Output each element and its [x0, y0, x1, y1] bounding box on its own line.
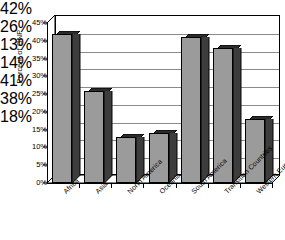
bar-side-face	[104, 91, 113, 183]
bar-chart: Percent of GNP 0%5%10%15%20%25%30%35%40%…	[0, 0, 285, 240]
y-tick-mark	[43, 111, 47, 112]
y-axis-line	[47, 23, 48, 183]
plot-area: 0%5%10%15%20%25%30%35%40%45% 42%26%13%14…	[0, 0, 285, 240]
gridline	[56, 52, 279, 53]
bar-front-face	[84, 91, 104, 183]
gridline	[56, 34, 279, 35]
x-tick-mark	[240, 183, 241, 188]
gridline	[56, 69, 279, 70]
bar[interactable]	[52, 26, 80, 183]
x-tick-mark	[143, 183, 144, 188]
x-tick-mark	[111, 183, 112, 188]
y-tick-mark	[43, 183, 47, 184]
y-tick-mark	[43, 165, 47, 166]
bar-front-face	[116, 137, 136, 183]
bar-side-face	[233, 48, 242, 183]
y-tick-mark	[43, 147, 47, 148]
bar-side-face	[201, 37, 210, 183]
bar[interactable]	[84, 83, 112, 183]
y-tick-mark	[43, 40, 47, 41]
x-tick-mark	[79, 183, 80, 188]
bar-side-face	[72, 34, 81, 183]
y-tick-mark	[43, 129, 47, 130]
bar-front-face	[181, 37, 201, 183]
y-tick-mark	[43, 23, 47, 24]
bar[interactable]	[181, 29, 209, 183]
x-tick-mark	[208, 183, 209, 188]
y-tick-mark	[43, 58, 47, 59]
bar-front-face	[52, 34, 72, 183]
y-tick-mark	[43, 94, 47, 95]
x-tick-mark	[272, 183, 273, 188]
x-tick-mark	[176, 183, 177, 188]
y-tick-mark	[43, 76, 47, 77]
